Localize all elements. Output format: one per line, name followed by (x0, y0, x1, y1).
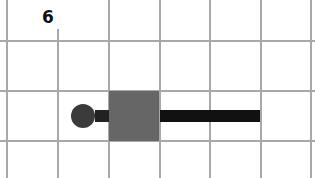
gray-square (109, 91, 159, 141)
black-bar (160, 110, 260, 122)
grid-line-vertical (108, 0, 110, 178)
circle-knob (71, 104, 95, 128)
grid-line-vertical (6, 0, 8, 178)
grid-line-vertical (57, 29, 59, 178)
puzzle-number: 6 (42, 9, 54, 26)
grid-line-vertical (310, 0, 312, 178)
grid-line-vertical (260, 0, 262, 178)
grid-line-vertical (159, 0, 161, 178)
grid-line-horizontal (0, 40, 315, 42)
connector-bar (95, 110, 109, 122)
grid-line-vertical (209, 0, 211, 178)
